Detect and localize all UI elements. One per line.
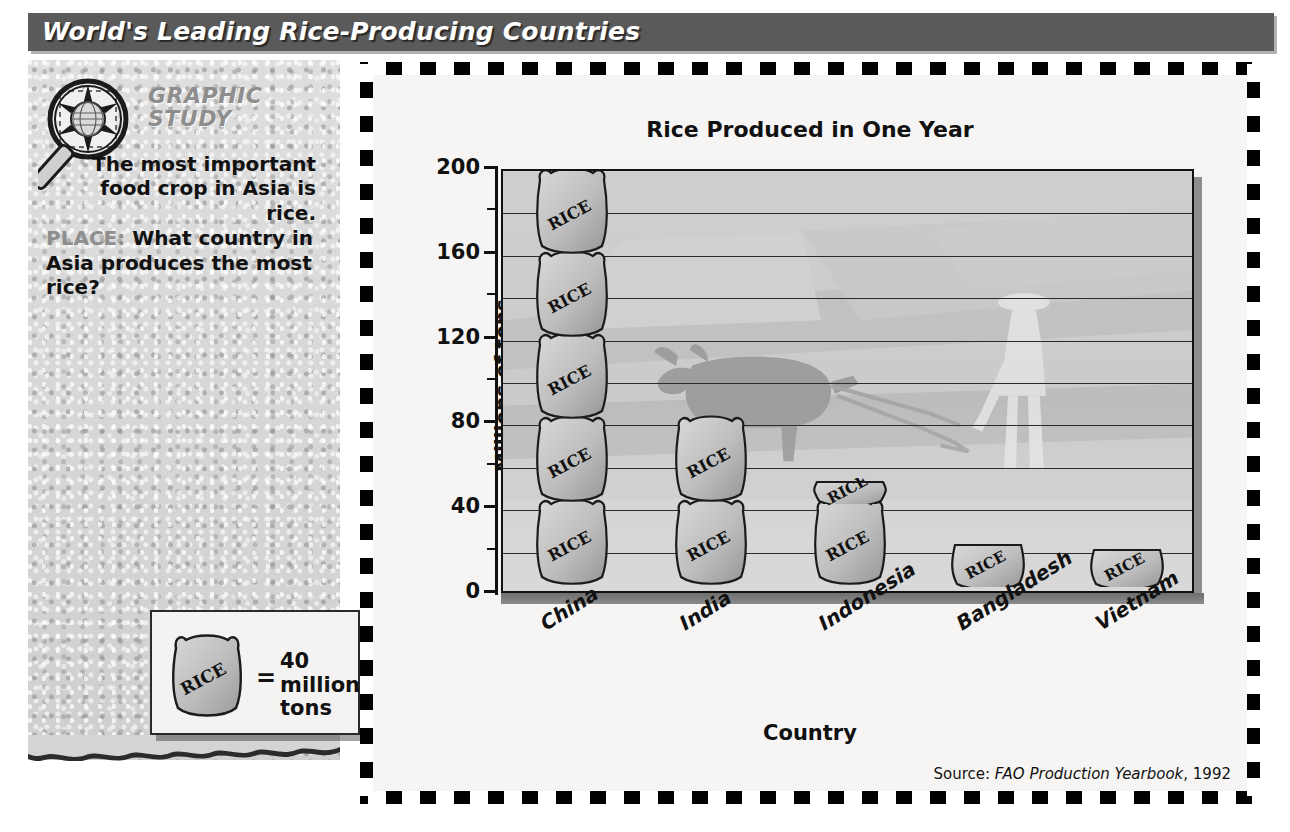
rice-bag-icon: RICE: [533, 247, 611, 343]
rice-bag-icon: RICE: [533, 169, 611, 260]
legend-rice-bag-icon: RICE: [168, 628, 246, 720]
page-root: World's Leading Rice-Producing Countries: [0, 0, 1290, 832]
legend-value-text: 40 million tons: [280, 650, 368, 721]
page-header-bar: World's Leading Rice-Producing Countries: [28, 13, 1274, 51]
rice-bag-icon: RICE: [533, 495, 611, 591]
graphic-study-heading-line1: GRAPHIC: [148, 83, 262, 108]
bar-china: RICE RICE RICE RICE RICE: [533, 197, 611, 591]
y-tick-100: [487, 378, 498, 380]
legend-equals-sign: =: [256, 664, 276, 692]
y-tick-0: [484, 590, 498, 593]
source-title: FAO Production Yearbook: [995, 765, 1183, 783]
y-tick-label-120: 120: [436, 325, 480, 349]
y-tick-40: [484, 505, 498, 508]
sidebar-torn-edge: [28, 735, 340, 761]
chart-frame: Rice Produced in One Year Millions of to…: [360, 62, 1260, 804]
plot-area-wrap: RICE RICE RICE RICE RICE: [501, 169, 1194, 593]
y-tick-label-80: 80: [451, 409, 480, 433]
place-label: PLACE:: [46, 226, 125, 250]
intro-line-2: food crop in Asia is rice.: [46, 176, 316, 225]
y-tick-label-0: 0: [465, 579, 480, 603]
y-tick-140: [487, 293, 498, 295]
legend-key-box: RICE = 40 million tons: [150, 610, 360, 735]
chart-source: Source: FAO Production Yearbook, 1992: [934, 765, 1232, 783]
chart-canvas: Rice Produced in One Year Millions of to…: [373, 75, 1247, 791]
y-tick-200: [484, 166, 498, 169]
graphic-study-text: The most important food crop in Asia is …: [46, 152, 316, 299]
source-year: , 1992: [1183, 765, 1231, 783]
rice-bag-icon: RICE: [672, 412, 750, 508]
intro-line-1: The most important: [46, 152, 316, 176]
rice-bag-icon: RICE: [533, 412, 611, 508]
y-tick-160: [484, 251, 498, 254]
y-tick-label-200: 200: [436, 155, 480, 179]
graphic-study-heading: GRAPHIC STUDY: [148, 84, 262, 131]
source-prefix: Source:: [934, 765, 991, 783]
page-title: World's Leading Rice-Producing Countries: [42, 17, 640, 46]
rice-bag-icon: RICE: [672, 495, 750, 591]
y-tick-180: [487, 208, 498, 210]
y-tick-20: [487, 548, 498, 550]
rice-bag-icon: RICE: [533, 329, 611, 425]
y-tick-label-40: 40: [451, 494, 480, 518]
chart-title: Rice Produced in One Year: [373, 117, 1247, 142]
y-tick-120: [484, 336, 498, 339]
rice-bag-icon-partial: RICE: [811, 478, 889, 508]
plot-area: RICE RICE RICE RICE RICE: [501, 169, 1194, 593]
y-tick-60: [487, 463, 498, 465]
graphic-study-heading-line2: STUDY: [148, 106, 232, 131]
y-tick-80: [484, 420, 498, 423]
bar-india: RICE RICE: [672, 432, 750, 591]
y-tick-label-160: 160: [436, 240, 480, 264]
x-axis-title: Country: [373, 721, 1247, 745]
